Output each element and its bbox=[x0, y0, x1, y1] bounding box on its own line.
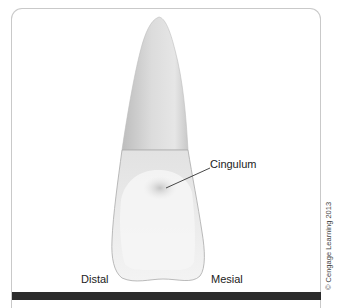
label-mesial: Mesial bbox=[211, 273, 243, 285]
label-distal: Distal bbox=[81, 273, 109, 285]
cingulum-shading bbox=[143, 176, 177, 200]
copyright-notice: © Cengage Learning 2013 bbox=[324, 202, 333, 290]
bottom-bar bbox=[12, 292, 321, 300]
label-cingulum: Cingulum bbox=[210, 158, 256, 170]
tooth-root bbox=[122, 17, 188, 150]
